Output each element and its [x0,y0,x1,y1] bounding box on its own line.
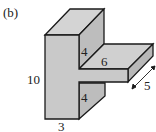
panel-label: (b) [3,5,18,20]
t-prism-diagram: (b) 10 3 4 4 6 5 [0,0,156,132]
lower-side-label: 4 [81,90,88,105]
upper-side-label: 4 [81,44,88,59]
arm-length-label: 6 [101,54,108,69]
width-label: 3 [58,119,65,132]
depth-label: 5 [144,78,151,93]
height-label: 10 [27,72,40,87]
